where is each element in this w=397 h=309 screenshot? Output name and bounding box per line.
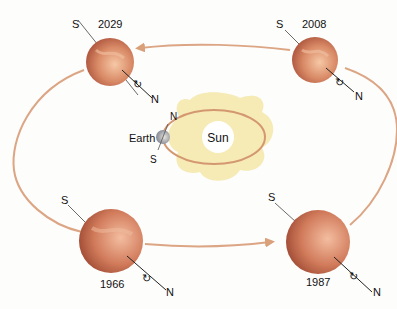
rotation-icon: ↻ xyxy=(349,270,358,282)
year-label: 2029 xyxy=(98,18,122,30)
year-label: 1966 xyxy=(100,278,124,290)
planet-2029: S 2029 ↻ N xyxy=(72,18,159,105)
rotation-icon: ↻ xyxy=(142,272,151,284)
rotation-icon: ↻ xyxy=(133,78,142,90)
pole-n: N xyxy=(373,286,381,298)
pole-s: S xyxy=(268,191,275,203)
pole-n: N xyxy=(151,93,159,105)
pole-n: N xyxy=(355,90,363,102)
pole-s: S xyxy=(276,18,283,30)
year-label: 2008 xyxy=(302,18,326,30)
sun-label: Sun xyxy=(207,131,228,145)
pole-s: S xyxy=(72,18,79,30)
planet-2008: S 2008 ↻ N xyxy=(276,18,363,102)
diagram-canvas: Sun Earth N S S 2029 ↻ N S 2008 ↻ N xyxy=(0,0,397,309)
rotation-icon: ↻ xyxy=(335,76,344,88)
earth-label: Earth xyxy=(129,132,155,144)
earth-pole-s: S xyxy=(150,154,157,165)
earth-pole-n: N xyxy=(170,111,177,122)
uranus-orbit-diagram: Sun Earth N S S 2029 ↻ N S 2008 ↻ N xyxy=(0,0,397,309)
sun: Sun xyxy=(168,92,273,181)
planet-1966: S 1966 ↻ N xyxy=(61,194,174,298)
year-label: 1987 xyxy=(306,276,330,288)
pole-s: S xyxy=(61,194,68,206)
pole-n: N xyxy=(166,286,174,298)
planet-1987: S 1987 ↻ N xyxy=(268,191,381,298)
